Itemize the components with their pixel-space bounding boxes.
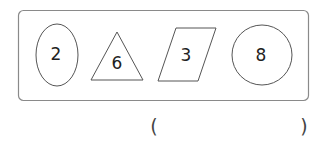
- answer-close-paren: ): [300, 115, 307, 137]
- ellipse-shape: 2: [36, 24, 78, 86]
- parallelogram-number: 3: [181, 45, 192, 65]
- parallelogram-shape: 3: [158, 28, 216, 81]
- triangle-shape: 6: [91, 32, 143, 80]
- answer-open-paren: (: [150, 115, 157, 137]
- circle-number: 8: [256, 45, 267, 65]
- circle-shape: 8: [232, 25, 292, 85]
- triangle-number: 6: [112, 53, 123, 73]
- puzzle-figure: 2 6 3 8 ( ): [0, 0, 326, 152]
- ellipse-number: 2: [51, 44, 62, 64]
